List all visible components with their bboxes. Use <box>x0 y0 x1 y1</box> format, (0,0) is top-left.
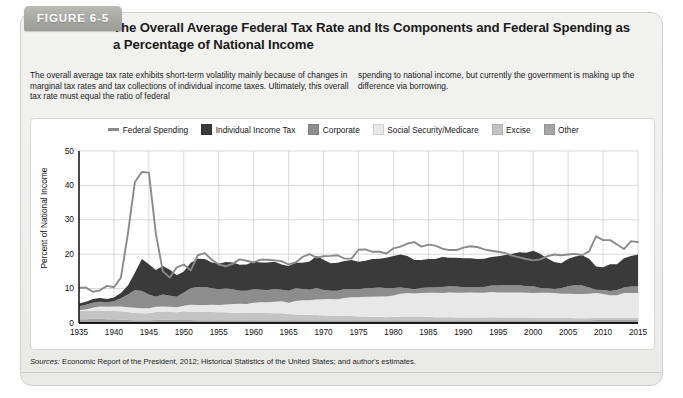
legend-swatch-icon <box>492 124 503 135</box>
x-axis-tick: 1950 <box>169 328 199 337</box>
legend-item-federal-spending: Federal Spending <box>108 125 188 135</box>
x-axis-tick: 1935 <box>64 328 94 337</box>
legend-label: Other <box>558 125 579 135</box>
x-axis-tick: 1985 <box>413 328 443 337</box>
figure-screenshot: FIGURE 6-5 The Overall Average Federal T… <box>0 0 683 398</box>
source-text: Economic Report of the President, 2012; … <box>60 357 416 366</box>
source-note: Sources: Economic Report of the Presiden… <box>30 357 416 366</box>
legend-item-excise: Excise <box>492 124 531 135</box>
legend-item-social-security-medicare: Social Security/Medicare <box>373 124 479 135</box>
legend-label: Social Security/Medicare <box>387 125 478 135</box>
x-axis-tick: 1970 <box>309 328 339 337</box>
figure-title: The Overall Average Federal Tax Rate and… <box>113 19 633 53</box>
chart-panel: Federal SpendingIndividual Income TaxCor… <box>30 118 655 350</box>
legend-swatch-icon <box>201 124 212 135</box>
legend-label: Corporate <box>323 125 360 135</box>
chart-svg <box>31 143 656 349</box>
y-axis-tick: 20 <box>52 249 74 259</box>
x-axis-tick: 1960 <box>239 328 269 337</box>
x-axis-tick: 2015 <box>623 328 653 337</box>
legend-swatch-icon <box>308 124 319 135</box>
x-axis-tick: 1955 <box>204 328 234 337</box>
x-axis-tick: 1965 <box>274 328 304 337</box>
legend-label: Federal Spending <box>123 125 189 135</box>
y-axis-label: Percent of National Income <box>39 143 49 293</box>
figure-caption-left: The overall average tax rate exhibits sh… <box>30 70 350 102</box>
legend-item-corporate: Corporate <box>308 124 359 135</box>
x-axis-tick: 1980 <box>378 328 408 337</box>
x-axis-tick: 1995 <box>483 328 513 337</box>
plot-area: Percent of National Income 0102030405019… <box>31 143 656 349</box>
y-axis-tick: 40 <box>52 180 74 190</box>
legend-item-other: Other <box>544 124 579 135</box>
footer-divider <box>22 372 661 373</box>
x-axis-tick: 1940 <box>99 328 129 337</box>
x-axis-tick: 2005 <box>553 328 583 337</box>
x-axis-tick: 1975 <box>344 328 374 337</box>
figure-number-tab: FIGURE 6-5 <box>24 6 122 31</box>
legend-swatch-icon <box>108 128 119 131</box>
x-axis-tick: 1945 <box>134 328 164 337</box>
chart-legend: Federal SpendingIndividual Income TaxCor… <box>31 124 656 135</box>
legend-label: Individual Income Tax <box>216 125 296 135</box>
legend-swatch-icon <box>544 124 555 135</box>
x-axis-tick: 2010 <box>588 328 618 337</box>
legend-swatch-icon <box>373 124 384 135</box>
y-axis-tick: 50 <box>52 146 74 156</box>
legend-item-individual-income-tax: Individual Income Tax <box>201 124 295 135</box>
figure-caption-right: spending to national income, but current… <box>358 70 658 91</box>
y-axis-tick: 30 <box>52 214 74 224</box>
legend-label: Excise <box>506 125 530 135</box>
x-axis-tick: 2000 <box>518 328 548 337</box>
x-axis-tick: 1990 <box>448 328 478 337</box>
y-axis-tick: 0 <box>52 318 74 328</box>
figure-number-label: FIGURE 6-5 <box>24 6 122 31</box>
y-axis-tick: 10 <box>52 283 74 293</box>
source-label: Sources: <box>30 357 60 366</box>
